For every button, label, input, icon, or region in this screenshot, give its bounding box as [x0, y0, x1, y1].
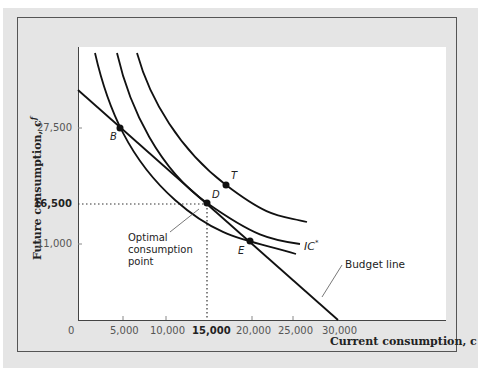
- x-tick-5000: 5,000: [110, 325, 139, 336]
- y-tick-16500: 16,500: [20, 198, 72, 209]
- chart-canvas: [0, 0, 483, 377]
- optimal-annotation-line1: Optimal: [128, 232, 193, 244]
- ic-star-label: IC*: [304, 237, 318, 253]
- point-t-marker: [223, 182, 230, 189]
- point-b-label: B: [110, 131, 117, 142]
- point-t-label: T: [231, 170, 237, 181]
- ic-star-text: IC: [304, 240, 315, 253]
- y-tick-11000: 11,000: [20, 238, 72, 249]
- point-d-label: D: [212, 189, 220, 200]
- y-axis-title: Future consumption, cf: [28, 60, 44, 260]
- x-tick-15000: 15,000: [192, 325, 231, 336]
- point-e-marker: [247, 238, 254, 245]
- optimal-consumption-annotation: Optimal consumption point: [128, 232, 193, 268]
- point-d-marker: [204, 200, 211, 207]
- x-axis-title: Current consumption, c: [330, 335, 477, 348]
- optimal-annotation-line2: consumption: [128, 244, 193, 256]
- x-tick-10000: 10,000: [150, 325, 185, 336]
- point-b-marker: [117, 125, 124, 132]
- point-e-label: E: [238, 245, 244, 256]
- x-tick-20000: 20,000: [236, 325, 271, 336]
- x-tick-0: 0: [68, 325, 74, 336]
- optimal-leader-line: [170, 209, 199, 232]
- y-axis-title-superscript: f: [28, 117, 38, 120]
- x-axis-ticks: [123, 316, 293, 320]
- ic-star-superscript: *: [315, 239, 319, 247]
- budget-leader-line: [322, 265, 342, 297]
- y-tick-27500: 27,500: [20, 122, 72, 133]
- optimal-annotation-line3: point: [128, 256, 193, 268]
- indifference-curve-high: [137, 53, 307, 222]
- y-axis-ticks: [78, 128, 82, 244]
- budget-line-label: Budget line: [345, 258, 405, 270]
- x-tick-25000: 25,000: [278, 325, 313, 336]
